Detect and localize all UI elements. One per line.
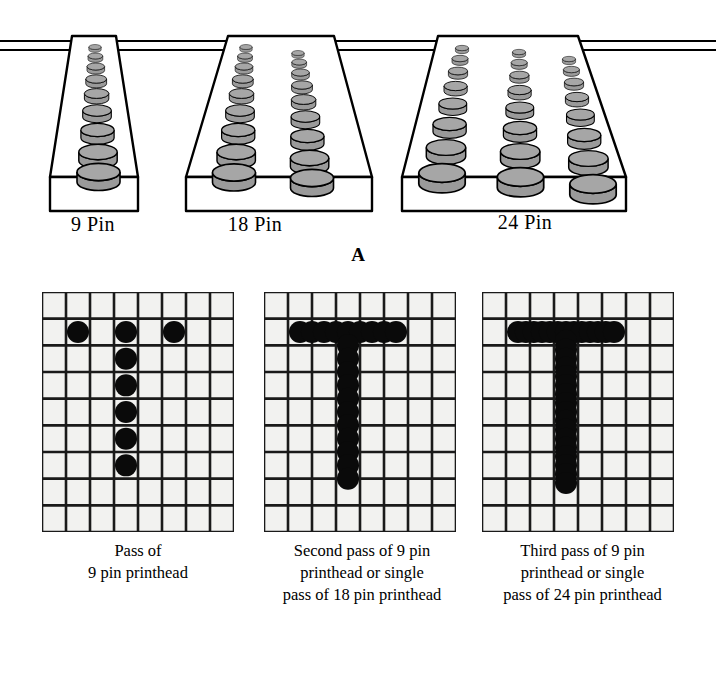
printhead-24pin — [402, 36, 626, 211]
panel-label-a: A — [338, 244, 378, 266]
dot-matrix-grid — [264, 292, 456, 532]
grid-single-pass: Pass of 9 pin printhead — [42, 292, 234, 532]
grid-double-pass: Second pass of 9 pin printhead or single… — [264, 292, 456, 532]
figure-root: 9 Pin 18 Pin 24 Pin A Pass of 9 pin prin… — [0, 0, 716, 678]
panel-a-printheads: 9 Pin 18 Pin 24 Pin A — [0, 0, 716, 282]
grid-triple-pass: Third pass of 9 pin printhead or single … — [482, 292, 674, 532]
printhead-18pin — [186, 36, 372, 211]
printhead-9pin — [50, 36, 138, 211]
grid-caption: Third pass of 9 pin printhead or single … — [460, 540, 705, 606]
grid-caption: Pass of 9 pin printhead — [18, 540, 258, 584]
grid-caption: Second pass of 9 pin printhead or single… — [242, 540, 482, 606]
panel-b-print-quality: Pass of 9 pin printhead Second pass of 9… — [0, 292, 716, 678]
dot-matrix-grid — [42, 292, 234, 532]
printhead-label-24pin: 24 Pin — [440, 211, 610, 234]
printhead-illustration — [0, 0, 716, 282]
printhead-label-9pin: 9 Pin — [38, 213, 148, 236]
dot-matrix-grid — [482, 292, 674, 532]
printhead-label-18pin: 18 Pin — [190, 213, 320, 236]
